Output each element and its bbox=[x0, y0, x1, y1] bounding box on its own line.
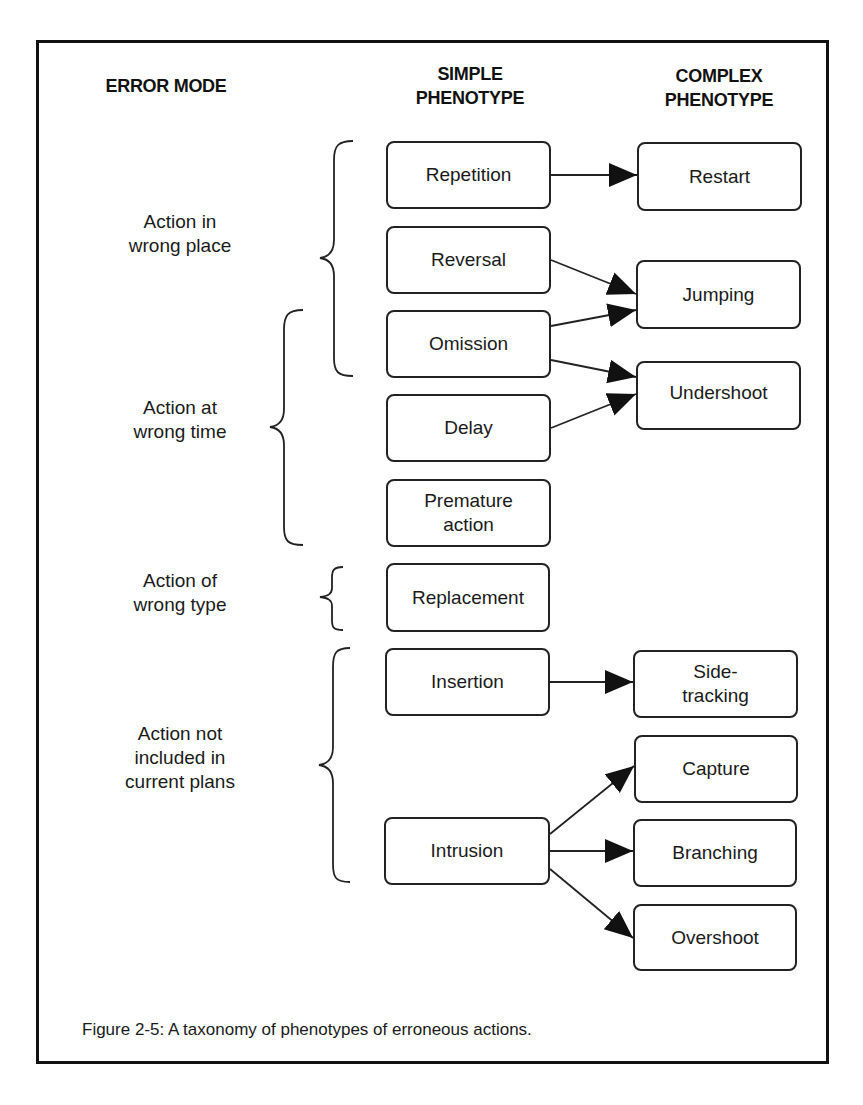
arrow-omission-undershoot-icon bbox=[551, 360, 636, 377]
brace-wrong-type-icon bbox=[320, 567, 343, 630]
arrow-omission-jumping-icon bbox=[551, 310, 636, 326]
figure-caption: Figure 2-5: A taxonomy of phenotypes of … bbox=[82, 1020, 532, 1040]
arrow-delay-undershoot-icon bbox=[551, 394, 636, 428]
arrow-intrusion-capture-icon bbox=[550, 766, 634, 834]
arrow-reversal-jumping-icon bbox=[551, 260, 636, 294]
connectors-layer bbox=[0, 0, 863, 1105]
brace-not-in-plans-icon bbox=[319, 648, 350, 882]
arrows bbox=[550, 175, 637, 938]
brace-wrong-place-icon bbox=[320, 141, 353, 376]
arrow-intrusion-overshoot-icon bbox=[550, 869, 633, 938]
braces bbox=[270, 141, 353, 882]
brace-wrong-time-icon bbox=[270, 310, 303, 545]
